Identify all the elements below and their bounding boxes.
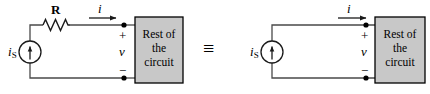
resistor-label: R <box>51 3 60 16</box>
equivalence-symbol: ≡ <box>203 38 214 58</box>
left-rest-of-circuit-text: Rest of the circuit <box>135 27 183 69</box>
left-box-line-3: circuit <box>135 55 183 69</box>
left-minus-sign: − <box>119 64 126 77</box>
right-box-line-2: the <box>375 41 425 55</box>
right-source-label-subscript: S <box>254 50 259 60</box>
left-source-label-subscript: S <box>12 50 17 60</box>
left-current-source-symbol <box>19 41 41 63</box>
circuit-diagram-figure: R i iS + v − Rest of the circuit ≡ i iS … <box>0 0 430 94</box>
left-voltage-label: v <box>119 45 125 58</box>
right-bottom-wire <box>272 63 375 78</box>
left-bottom-wire <box>30 63 124 78</box>
right-rest-of-circuit-text: Rest of the circuit <box>375 27 425 69</box>
resistor-symbol <box>43 20 70 31</box>
right-box-line-3: circuit <box>375 55 425 69</box>
right-node-dot-top <box>363 22 368 27</box>
left-current-label: i <box>98 2 102 15</box>
left-node-dot-top <box>121 22 126 27</box>
left-top-wire <box>30 25 124 41</box>
right-box-line-1: Rest of <box>375 27 425 41</box>
right-current-source-symbol <box>261 41 283 63</box>
left-plus-sign: + <box>119 29 126 42</box>
right-voltage-label: v <box>361 45 367 58</box>
left-source-label: iS <box>8 45 17 58</box>
left-box-line-2: the <box>135 41 183 55</box>
right-plus-sign: + <box>361 29 368 42</box>
right-current-label: i <box>347 2 351 15</box>
right-minus-sign: − <box>361 64 368 77</box>
right-top-wire <box>272 25 375 41</box>
right-source-label: iS <box>250 45 259 58</box>
left-box-line-1: Rest of <box>135 27 183 41</box>
